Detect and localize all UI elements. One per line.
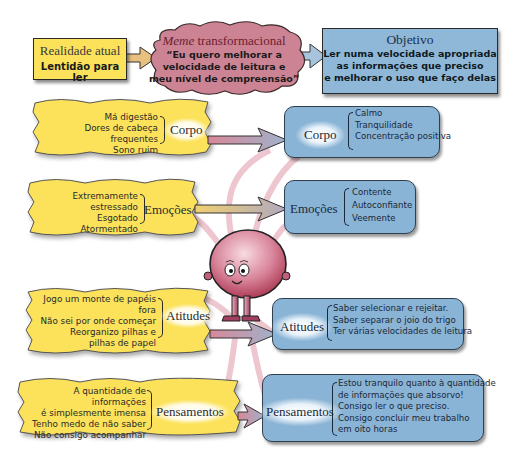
- realidade-subtitle: Lentidão para ler: [34, 61, 126, 83]
- right-pensamentos-label: Pensamentos: [258, 398, 342, 426]
- meme-title-italic: Meme: [162, 33, 194, 48]
- realidade-atual-box: Realidade atual Lentidão para ler: [33, 38, 127, 80]
- objetivo-title: Objetivo: [323, 32, 497, 48]
- meme-transformacional: Meme transformacional “Eu quero melhorar…: [148, 28, 300, 88]
- objetivo-line: as informações que preciso: [323, 60, 497, 72]
- objetivo-box: Objetivo Ler numa velocidade apropriada …: [322, 28, 498, 94]
- list-item: de informações que absorvo!: [338, 390, 496, 402]
- left-atitudes-items: Jogo um monte de papéis fora Não sei por…: [30, 294, 156, 349]
- arrow-corpo: [208, 128, 287, 152]
- brace-icon: [348, 112, 353, 150]
- list-item: Veemente: [352, 212, 412, 225]
- list-item: Saber selecionar e rejeitar.: [333, 303, 472, 315]
- list-item: Não sei por onde começar: [30, 316, 156, 327]
- list-item: é simplesmente imensa: [22, 408, 146, 419]
- objetivo-line: e melhorar o uso que faço delas: [323, 72, 497, 84]
- list-item: em oito horas: [338, 424, 496, 436]
- list-item: Dores de cabeça frequentes: [40, 123, 158, 145]
- list-item: Sono ruim: [40, 145, 158, 156]
- list-item: Esgotado: [36, 213, 138, 224]
- list-item: Consigo concluir meu trabalho: [338, 413, 496, 425]
- list-item: Extremamente estressado: [36, 191, 138, 213]
- left-pensamentos-label: Pensamentos: [150, 400, 230, 424]
- left-corpo-items: Má digestão Dores de cabeça frequentes S…: [40, 112, 158, 156]
- right-corpo-items: Calmo Tranquilidade Concentração positiv…: [355, 108, 451, 143]
- brace-icon: [344, 188, 349, 226]
- list-item: Autoconfiante: [352, 199, 412, 212]
- right-atitudes-items: Saber selecionar e rejeitar. Saber separ…: [333, 303, 472, 338]
- list-item: Calmo: [355, 108, 451, 120]
- list-item: Ter várias velocidades de leitura: [333, 326, 472, 338]
- list-item: Tenho medo de não saber: [22, 419, 146, 430]
- meme-quote-line: velocidade de leitura e: [148, 61, 300, 73]
- list-item: Reorganizo pilhas e: [30, 327, 156, 338]
- realidade-title: Realidade atual: [34, 43, 126, 59]
- meme-quote-line: “Eu quero melhorar a: [148, 49, 300, 61]
- list-item: Jogo um monte de papéis fora: [30, 294, 156, 316]
- right-emocoes-items: Contente Autoconfiante Veemente: [352, 186, 412, 225]
- left-pensamentos-items: A quantidade de informações é simplesmen…: [22, 386, 146, 441]
- list-item: Saber separar o joio do trigo: [333, 315, 472, 327]
- meme-title-rest: transformacional: [194, 33, 285, 48]
- list-item: Consigo ler o que preciso.: [338, 401, 496, 413]
- list-item: Má digestão: [40, 112, 158, 123]
- right-corpo-label: Corpo: [296, 121, 345, 149]
- arrow-emocoes: [195, 197, 287, 221]
- left-emocoes-label: Emoções: [144, 202, 192, 218]
- right-pensamentos-items: Estou tranquilo quanto à quantidade de i…: [338, 378, 496, 436]
- brace-icon: [332, 382, 337, 436]
- meme-title: Meme transformacional: [148, 33, 300, 49]
- left-corpo-label: Corpo: [164, 118, 209, 142]
- left-atitudes-label: Atitudes: [160, 304, 216, 328]
- list-item: Concentração positiva: [355, 131, 451, 143]
- list-item: Tranquilidade: [355, 120, 451, 132]
- objetivo-line: Ler numa velocidade apropriada: [323, 48, 497, 60]
- left-emocoes-items: Extremamente estressado Esgotado Atormen…: [36, 191, 138, 235]
- brace-icon: [327, 305, 332, 341]
- right-atitudes-label: Atitudes: [272, 313, 332, 341]
- right-emocoes-label: Emoções: [290, 201, 338, 217]
- list-item: A quantidade de informações: [22, 386, 146, 408]
- list-item: pilhas de papel: [30, 338, 156, 349]
- list-item: Não consigo acompanhar: [22, 430, 146, 441]
- list-item: Contente: [352, 186, 412, 199]
- list-item: Atormentado: [36, 224, 138, 235]
- meme-quote-line: meu nível de compreensão”: [148, 73, 300, 85]
- list-item: Estou tranquilo quanto à quantidade: [338, 378, 496, 390]
